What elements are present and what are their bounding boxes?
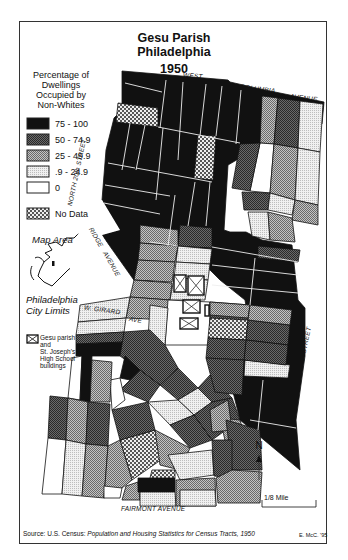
legend-swatch-no-data bbox=[27, 208, 49, 219]
legend-swatch-1-25 bbox=[27, 166, 49, 177]
source-title: Population and Housing Statistics for Ce… bbox=[87, 530, 255, 537]
legend-item-0: 0 bbox=[55, 181, 60, 194]
legend-label: 0 bbox=[55, 183, 60, 193]
inset-map-area-label: Map Area bbox=[32, 234, 73, 245]
legend-label: No Data bbox=[55, 209, 88, 219]
source-prefix: Source: U.S. Census: bbox=[23, 530, 87, 537]
street-label-west: WEST bbox=[183, 71, 203, 79]
north-label: N bbox=[249, 440, 269, 451]
legend-item-25-50: 25 - 49.9 bbox=[55, 149, 91, 162]
inset-city-limits-label: Philadelphia City Limits bbox=[26, 294, 78, 316]
gesu-label-line: buildings bbox=[40, 362, 90, 369]
map-credit: E. McC. '95 bbox=[299, 532, 327, 538]
gesu-label-line: St. Joseph's bbox=[40, 348, 90, 355]
legend-swatch-25-50 bbox=[27, 150, 49, 161]
street-label-fairmont: FAIRMONT AVENUE bbox=[121, 505, 185, 512]
legend-label: 75 - 100 bbox=[55, 119, 88, 129]
legend-swatch-0 bbox=[27, 182, 49, 193]
inset-city-limits-line: City Limits bbox=[26, 305, 78, 316]
legend-item-75-100: 75 - 100 bbox=[55, 117, 88, 130]
gesu-building-legend-symbol bbox=[27, 335, 38, 343]
gesu-label-line: Gesu parish bbox=[40, 334, 90, 341]
gesu-label-line: High School bbox=[40, 355, 90, 362]
scale-label: 1/8 Mile bbox=[264, 494, 289, 501]
legend-swatch-75-100 bbox=[27, 118, 49, 129]
source-citation: Source: U.S. Census: Population and Hous… bbox=[23, 530, 255, 537]
legend-swatch-50-75 bbox=[27, 134, 49, 145]
map-canvas bbox=[0, 0, 348, 560]
scale-bar bbox=[262, 500, 316, 507]
legend-item-no-data: No Data bbox=[55, 207, 88, 220]
inset-city-limits-line: Philadelphia bbox=[26, 294, 78, 305]
inset-map-area-marker bbox=[52, 261, 55, 266]
gesu-label-line: and bbox=[40, 341, 90, 348]
legend-label: 25 - 49.9 bbox=[55, 151, 91, 161]
gesu-buildings-legend-label: Gesu parish and St. Joseph's High School… bbox=[40, 334, 90, 369]
legend-swatches bbox=[27, 118, 49, 219]
